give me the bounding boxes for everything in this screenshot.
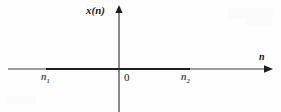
marker-n1-subscript: 1	[47, 77, 50, 84]
x-axis-label: n	[259, 52, 265, 62]
marker-label-n2: n2	[181, 72, 190, 85]
y-axis-arrow-icon	[115, 5, 122, 13]
y-axis-label: x(n)	[86, 5, 105, 16]
x-axis-arrow-icon	[264, 65, 273, 73]
marker-label-n1: n1	[41, 72, 50, 85]
axis-diagram-canvas	[0, 0, 281, 112]
marker-n2-subscript: 2	[187, 77, 190, 84]
origin-label: 0	[124, 72, 130, 83]
signal-axis-figure: x(n) n 0 n1 n2	[0, 0, 281, 112]
